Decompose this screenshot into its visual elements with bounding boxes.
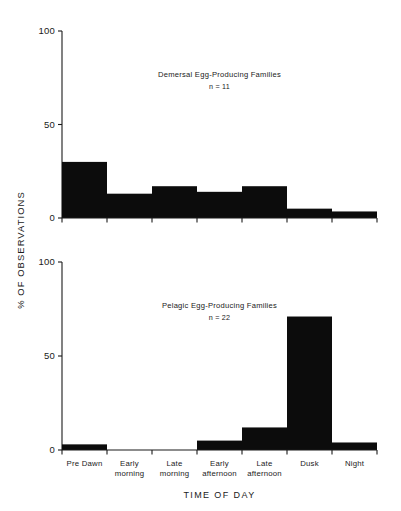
y-tick-label-0-0: 0	[50, 212, 55, 223]
figure-container: 050100Demersal Egg-Producing Familiesn =…	[0, 0, 401, 511]
bar-panel-0-4	[242, 186, 287, 218]
x-axis-title: TIME OF DAY	[183, 490, 255, 500]
y-tick-label-1-1: 50	[44, 350, 55, 361]
bar-panel-1-6	[332, 442, 377, 450]
bar-panel-1-0	[62, 444, 107, 450]
bar-panel-0-0	[62, 162, 107, 218]
y-tick-label-1-2: 100	[39, 256, 55, 267]
x-category-label-line2-2: morning	[160, 469, 190, 478]
bar-panel-0-2	[152, 186, 197, 218]
panel-title-0: Demersal Egg-Producing Families	[158, 70, 281, 79]
y-tick-label-1-0: 0	[50, 444, 55, 455]
bar-panel-0-1	[107, 194, 152, 218]
panel-title-1: Pelagic Egg-Producing Families	[162, 301, 277, 310]
y-tick-label-0-2: 100	[39, 25, 55, 36]
y-axis-title: % OF OBSERVATIONS	[15, 191, 26, 309]
x-category-label-3: Early	[210, 459, 229, 468]
bar-panel-0-5	[287, 209, 332, 218]
x-category-label-line2-4: afternoon	[247, 469, 282, 478]
bar-panel-0-3	[197, 192, 242, 218]
bar-panel-0-6	[332, 211, 377, 218]
x-category-label-4: Late	[257, 459, 273, 468]
x-category-label-5: Dusk	[300, 459, 319, 468]
x-category-label-line2-3: afternoon	[202, 469, 237, 478]
panel-subtitle-0: n = 11	[209, 82, 230, 91]
panel-subtitle-1: n = 22	[209, 313, 230, 322]
bar-panel-1-3	[197, 441, 242, 450]
x-category-label-1: Early	[120, 459, 139, 468]
chart-svg: 050100Demersal Egg-Producing Familiesn =…	[0, 0, 401, 511]
bar-panel-1-5	[287, 317, 332, 450]
x-category-label-line2-1: morning	[115, 469, 145, 478]
y-tick-label-0-1: 50	[44, 119, 55, 130]
x-category-label-6: Night	[345, 459, 365, 468]
bar-panel-1-4	[242, 427, 287, 450]
x-category-label-2: Late	[167, 459, 183, 468]
x-category-label-0: Pre Dawn	[67, 459, 103, 468]
